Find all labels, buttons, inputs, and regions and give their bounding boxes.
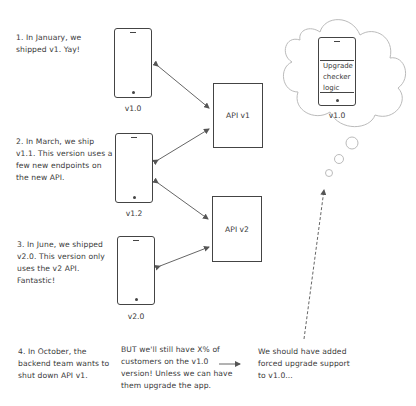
thought-bubble	[346, 137, 358, 149]
phone-v2-0	[117, 236, 155, 305]
step-2-text: 2. In March, we ship v1.1. This version …	[16, 136, 113, 184]
phone-v1-2	[115, 133, 153, 203]
arrow-v10-apiv1	[158, 66, 209, 108]
api-v1-box: API v1	[213, 83, 263, 148]
dashed-arrow-to-thought	[304, 190, 324, 339]
step-3-text: 3. In June, we shipped v2.0. This versio…	[17, 239, 105, 287]
arrow-v12-apiv1	[158, 129, 209, 160]
step-1-text: 1. In January, we shipped v1. Yay!	[16, 32, 81, 56]
arrow-v20-apiv2	[160, 247, 209, 266]
thought-phone: Upgrade checker logic	[318, 37, 356, 106]
phone-v1-0	[114, 28, 152, 98]
api-v2-box: API v2	[212, 196, 262, 262]
speaker-icon	[131, 137, 137, 138]
consequence-text: BUT we'll still have X% of customers on …	[121, 344, 232, 392]
home-button-icon	[135, 298, 138, 301]
thought-bubble	[326, 170, 333, 177]
home-button-icon	[133, 196, 136, 199]
conclusion-text: We should have added forced upgrade supp…	[258, 346, 350, 382]
home-button-icon	[132, 91, 135, 94]
thought-phone-label: v1.0	[317, 111, 357, 120]
api-label: API v1	[226, 111, 250, 120]
thought-bubble	[335, 155, 344, 164]
step-4-text: 4. In October, the backend team wants to…	[18, 346, 109, 382]
home-button-icon	[336, 99, 339, 102]
speaker-icon	[130, 32, 136, 33]
speaker-icon	[334, 41, 340, 42]
speaker-icon	[133, 240, 139, 241]
upgrade-checker-screen: Upgrade checker logic	[320, 60, 354, 93]
phone-label: v1.0	[113, 104, 153, 113]
phone-label: v1.2	[114, 209, 154, 218]
arrow-v12-apiv2	[158, 183, 208, 219]
phone-label: v2.0	[116, 312, 156, 321]
api-label: API v2	[225, 225, 249, 234]
